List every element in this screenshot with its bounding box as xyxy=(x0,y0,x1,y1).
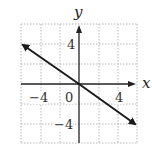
x-tick-4: 4 xyxy=(114,91,124,104)
y-axis-label: y xyxy=(74,5,82,20)
x-tick-neg4: −4 xyxy=(29,91,48,104)
coordinate-plane xyxy=(0,0,152,158)
y-tick-neg4: −4 xyxy=(54,118,73,131)
origin-label: 0 xyxy=(65,91,73,104)
x-axis-label: x xyxy=(142,76,150,91)
y-tick-4: 4 xyxy=(66,38,76,51)
